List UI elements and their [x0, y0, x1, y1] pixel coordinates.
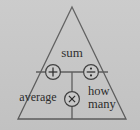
math-triangle-diagram: sum average how many: [0, 0, 140, 130]
divide-icon-dot-bottom: [90, 74, 92, 76]
label-how-many: how many: [88, 85, 128, 110]
divide-operator-node: [84, 65, 99, 80]
label-average: average: [12, 91, 64, 103]
label-sum: sum: [50, 46, 94, 59]
divide-icon-dot-top: [90, 68, 92, 70]
triangle-graphic: [0, 0, 140, 130]
label-how-many-line1: how: [88, 85, 128, 98]
plus-operator-node: [46, 65, 61, 80]
times-operator-node: [65, 92, 80, 107]
label-how-many-line2: many: [88, 98, 128, 111]
